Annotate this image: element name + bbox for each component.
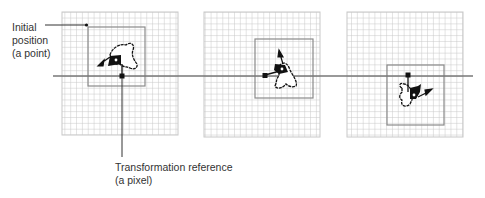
initial-position-point <box>85 23 88 26</box>
pixel-grid <box>204 12 320 137</box>
label-line: position <box>12 34 51 47</box>
transformation-diagram <box>0 0 485 198</box>
label-line: (a pixel) <box>115 174 233 187</box>
initial-position-label: Initial position (a point) <box>12 21 51 60</box>
panel-2 <box>204 12 320 137</box>
label-line: Transformation reference <box>115 161 233 174</box>
label-line: Initial <box>12 21 51 34</box>
label-line: (a point) <box>12 47 51 60</box>
panel-3 <box>347 12 463 137</box>
reference-pixel-marker <box>406 73 411 78</box>
transformation-reference-label: Transformation reference (a pixel) <box>115 161 233 187</box>
reference-pixel-marker <box>120 74 125 79</box>
center-point <box>281 68 284 71</box>
center-point <box>115 59 118 62</box>
pixel-grid <box>347 12 463 137</box>
center-point <box>413 94 416 97</box>
reference-pixel-marker <box>263 73 268 78</box>
